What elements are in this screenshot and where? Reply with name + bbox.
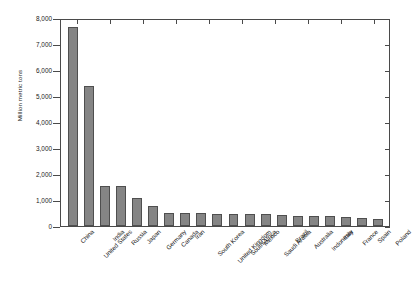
y-tick	[53, 175, 60, 176]
bar-item	[322, 20, 338, 226]
bar	[261, 214, 271, 226]
bar-item	[225, 20, 241, 226]
bar	[245, 214, 255, 226]
x-tick-top	[110, 19, 111, 24]
bar	[229, 214, 239, 226]
bar	[212, 214, 222, 226]
y-tick-label: 7,000	[12, 41, 52, 48]
x-axis-label: Spain	[376, 228, 392, 244]
y-tick-right	[385, 71, 390, 72]
x-axis-label: China	[79, 228, 95, 244]
y-tick	[53, 71, 60, 72]
bar-item	[290, 20, 306, 226]
y-tick	[53, 149, 60, 150]
x-axis-label: Japan	[145, 228, 162, 245]
bar-item	[354, 20, 370, 226]
y-tick-right	[385, 45, 390, 46]
y-tick	[53, 123, 60, 124]
y-tick	[53, 227, 60, 228]
bar-item	[274, 20, 290, 226]
bar	[164, 213, 174, 226]
y-tick-label: 1,000	[12, 197, 52, 204]
bar-item	[65, 20, 81, 226]
bar	[132, 198, 142, 226]
y-tick-right	[385, 19, 390, 20]
y-tick-right	[385, 123, 390, 124]
y-tick-right	[385, 149, 390, 150]
bar	[357, 218, 367, 226]
x-tick-top	[374, 19, 375, 24]
bar-series	[61, 20, 389, 226]
bar	[148, 206, 158, 226]
x-tick-top	[275, 19, 276, 24]
bar	[116, 186, 126, 226]
bar-item	[370, 20, 386, 226]
y-tick-label: 0	[12, 223, 52, 230]
y-tick	[53, 201, 60, 202]
bar-item	[258, 20, 274, 226]
x-tick-top	[176, 19, 177, 24]
bar	[325, 216, 335, 226]
y-tick-label: 5,000	[12, 93, 52, 100]
bar	[277, 215, 287, 226]
y-tick-right	[385, 97, 390, 98]
y-tick-right	[385, 201, 390, 202]
y-tick	[53, 97, 60, 98]
bar	[293, 216, 303, 226]
x-tick-top	[143, 19, 144, 24]
bar	[196, 213, 206, 226]
bar	[68, 27, 78, 226]
x-axis-label: Poland	[393, 228, 412, 247]
bar-item	[81, 20, 97, 226]
bar-item	[161, 20, 177, 226]
y-tick-label: 8,000	[12, 15, 52, 22]
bar	[180, 213, 190, 226]
y-tick	[53, 19, 60, 20]
x-tick-top	[77, 19, 78, 24]
bar-item	[113, 20, 129, 226]
bar-item	[209, 20, 225, 226]
bar	[309, 216, 319, 226]
y-tick-label: 2,000	[12, 171, 52, 178]
bar-item	[242, 20, 258, 226]
bar-item	[338, 20, 354, 226]
x-tick-top	[209, 19, 210, 24]
bar-item	[97, 20, 113, 226]
x-tick-top	[341, 19, 342, 24]
bar	[100, 186, 110, 226]
x-axis-labels: ChinaUnited StatesIndiaRussiaJapanGerman…	[60, 228, 390, 304]
bar	[341, 217, 351, 226]
bar	[373, 219, 383, 226]
plot-area	[60, 19, 390, 227]
bar	[84, 86, 94, 226]
y-tick-label: 4,000	[12, 119, 52, 126]
bar-item	[129, 20, 145, 226]
y-tick-label: 3,000	[12, 145, 52, 152]
bar-item	[177, 20, 193, 226]
x-tick-top	[308, 19, 309, 24]
y-tick-right	[385, 227, 390, 228]
bar-item	[306, 20, 322, 226]
bar-item	[145, 20, 161, 226]
y-tick-label: 6,000	[12, 67, 52, 74]
x-tick-top	[242, 19, 243, 24]
y-tick-right	[385, 175, 390, 176]
y-tick	[53, 45, 60, 46]
bar-item	[193, 20, 209, 226]
